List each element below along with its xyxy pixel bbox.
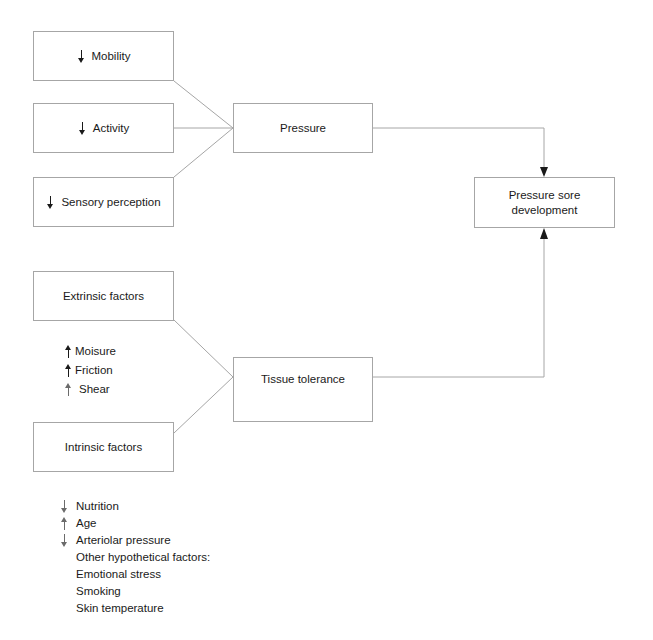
node-mobility-label: Mobility [92,49,131,64]
intrinsic-factor-label: Arteriolar pressure [76,532,171,549]
down-arrow-icon [60,499,76,514]
node-extrinsic-factors-label: Extrinsic factors [63,289,144,304]
down-arrow-icon [77,49,86,64]
intrinsic-factor-label: Other hypothetical factors: [76,549,210,566]
node-pressure[interactable]: Pressure [233,103,373,153]
node-pressure-sore-development-label: Pressure sore development [509,188,581,218]
up-arrow-icon [64,344,75,359]
node-activity-content: Activity [78,121,129,136]
node-extrinsic-factors[interactable]: Extrinsic factors [33,271,174,321]
edge-intrinsic-to-tissue [174,377,233,433]
intrinsic-factor-label: Age [76,515,96,532]
list-item: Age [60,515,210,532]
arrowhead-into-outcome-top [540,167,548,177]
node-tissue-tolerance[interactable]: Tissue tolerance [233,357,373,422]
node-mobility-content: Mobility [77,49,131,64]
list-item: Friction [64,361,116,380]
node-pressure-label: Pressure [280,121,326,136]
node-sensory-perception-label: Sensory perception [61,195,160,210]
list-item: Moisure [64,342,116,361]
list-item: Emotional stress [60,566,210,583]
list-item: Nutrition [60,498,210,515]
node-activity[interactable]: Activity [33,103,174,153]
intrinsic-factors-list: Nutrition Age Arteriolar pressure Other … [60,498,210,617]
intrinsic-factor-label: Smoking [76,583,121,600]
edge-mobility-to-pressure [174,81,233,128]
node-tissue-tolerance-label: Tissue tolerance [261,372,345,387]
edge-sensory-to-pressure [174,128,233,177]
node-sensory-perception[interactable]: Sensory perception [33,177,174,227]
list-item: Other hypothetical factors: [60,549,210,566]
extrinsic-factor-label: Friction [75,361,113,380]
extrinsic-factors-list: Moisure Friction Shear [64,342,116,399]
down-arrow-icon [78,121,87,136]
arrowhead-into-outcome-bottom [540,228,548,239]
intrinsic-factor-label: Skin temperature [76,600,164,617]
edge-extrinsic-to-tissue [174,320,233,377]
intrinsic-factor-label: Emotional stress [76,566,161,583]
edge-tissue-to-outcome [373,234,544,377]
extrinsic-factor-label: Shear [75,380,110,399]
node-pressure-sore-development[interactable]: Pressure sore development [474,177,615,228]
node-sensory-perception-content: Sensory perception [46,195,160,210]
up-arrow-icon [64,363,75,378]
up-arrow-icon [64,382,75,397]
intrinsic-factor-label: Nutrition [76,498,119,515]
extrinsic-factor-label: Moisure [75,342,116,361]
diagram-canvas: Mobility Activity Sensory perception Pre… [0,0,653,640]
list-item: Skin temperature [60,600,210,617]
down-arrow-icon [60,533,76,548]
edge-pressure-to-outcome [373,128,544,172]
list-item: Arteriolar pressure [60,532,210,549]
list-item: Smoking [60,583,210,600]
up-arrow-icon [60,516,76,531]
list-item: Shear [64,380,116,399]
down-arrow-icon [46,195,55,210]
node-mobility[interactable]: Mobility [33,31,174,81]
node-intrinsic-factors[interactable]: Intrinsic factors [33,422,174,472]
node-intrinsic-factors-label: Intrinsic factors [65,440,142,455]
node-activity-label: Activity [93,121,129,136]
